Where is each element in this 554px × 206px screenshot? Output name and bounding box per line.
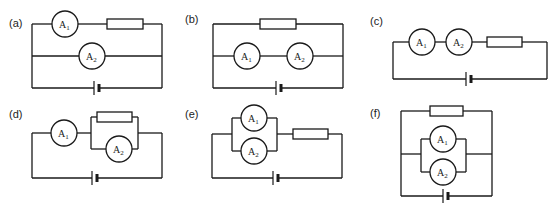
circuit-figure: (a) A1 A2 (b)	[0, 0, 554, 206]
ammeter-a2: A2	[287, 43, 313, 69]
ammeter-a1: A1	[430, 126, 456, 152]
resistor	[260, 19, 296, 29]
ammeter-a2: A2	[430, 159, 456, 185]
circuit-a: (a) A1 A2	[9, 11, 162, 95]
ammeter-a1: A1	[52, 11, 78, 37]
resistor	[430, 106, 463, 116]
ammeter-a2: A2	[446, 29, 472, 55]
ammeter-a1: A1	[241, 105, 267, 131]
resistor	[97, 112, 132, 122]
circuit-label: (e)	[185, 108, 198, 120]
circuit-b: (b) A1 A2	[185, 13, 343, 95]
circuit-label: (c)	[370, 15, 383, 27]
ammeter-a1: A1	[234, 43, 260, 69]
resistor	[293, 129, 328, 139]
circuit-label: (a)	[9, 17, 22, 29]
ammeter-a1: A1	[51, 120, 77, 146]
circuit-f: (f) A1 A2	[370, 106, 492, 203]
circuit-e: (e) A1 A2	[185, 105, 342, 185]
resistor	[107, 19, 143, 29]
ammeter-a2: A2	[241, 138, 267, 164]
circuit-label: (b)	[185, 13, 198, 25]
resistor	[487, 37, 522, 47]
circuit-c: (c) A1 A2	[370, 15, 547, 86]
circuit-label: (d)	[9, 108, 22, 120]
circuit-label: (f)	[370, 107, 380, 119]
ammeter-a2: A2	[79, 43, 105, 69]
ammeter-a2: A2	[106, 136, 132, 162]
ammeter-a1: A1	[409, 29, 435, 55]
circuit-d: (d) A1 A2	[9, 108, 162, 185]
